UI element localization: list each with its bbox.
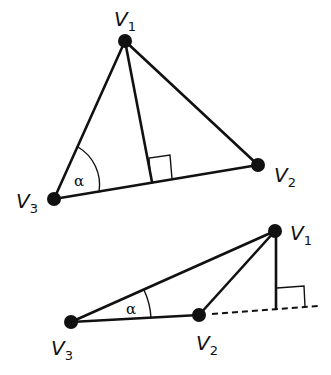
vertex-dot-v1 [268, 224, 282, 238]
vertex-dot-v2 [192, 308, 206, 322]
right-angle-mark [149, 155, 172, 179]
side-v1-v3 [54, 41, 125, 199]
angle-arc [144, 290, 151, 318]
label-v2-bottom: V2 [196, 331, 218, 358]
vertex-dot-v2 [251, 158, 265, 172]
label-v3-bottom: V3 [51, 336, 73, 363]
right-angle-mark [277, 286, 305, 307]
acute-triangle [54, 41, 258, 199]
side-v3-v1 [71, 231, 275, 322]
obtuse-triangle [71, 231, 318, 322]
diagram-canvas: V1 V2 V3 α V1 V2 V3 α [0, 0, 331, 375]
vertex-dot-v3 [47, 192, 61, 206]
label-v3-top: V3 [16, 189, 38, 216]
extension-dashed [212, 306, 318, 314]
vertex-dot-v3 [64, 315, 78, 329]
vertex-dot-v1 [118, 34, 132, 48]
label-v1-bottom: V1 [290, 221, 312, 248]
triangle-diagram: V1 V2 V3 α V1 V2 V3 α [0, 0, 331, 375]
angle-alpha-top: α [74, 172, 84, 190]
label-v1-top: V1 [114, 7, 136, 34]
side-v2-v1 [199, 231, 275, 315]
label-v2-top: V2 [274, 163, 296, 190]
side-v3-v2 [54, 165, 258, 199]
angle-alpha-bottom: α [126, 300, 136, 318]
